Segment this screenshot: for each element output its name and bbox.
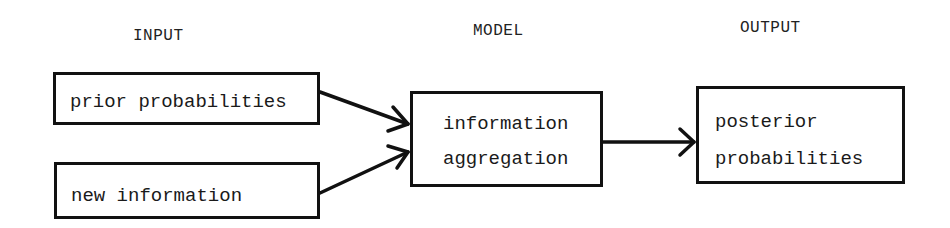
arrow-newinfo-to-aggregation-icon bbox=[320, 146, 408, 193]
edges-layer bbox=[0, 0, 950, 228]
arrow-aggregation-to-posterior-icon bbox=[603, 129, 694, 155]
arrow-prior-to-aggregation-icon bbox=[320, 92, 408, 131]
